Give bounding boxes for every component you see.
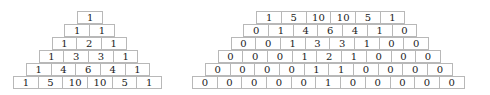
cell: 0 [391,50,417,63]
cell: 1 [64,24,90,37]
cell: 6 [317,24,343,37]
cell: 0 [254,63,280,76]
cell: 10 [330,11,356,24]
cell: 0 [266,76,292,89]
cell: 1 [256,11,282,24]
cell: 1 [341,50,367,63]
left-row-5: 1 5 10 10 5 1 [13,76,162,89]
cell: 1 [39,50,65,63]
cell: 5 [38,76,64,89]
cell: 3 [88,50,114,63]
cell: 0 [402,63,428,76]
cell: 4 [100,63,126,76]
cell: 0 [279,63,305,76]
cell: 0 [379,37,405,50]
cell: 10 [87,76,113,89]
cell: 0 [230,63,256,76]
cell: 1 [380,11,406,24]
left-row-2: 1 2 1 [52,37,127,50]
cell: 0 [390,76,416,89]
cell: 2 [316,50,342,63]
cell: 0 [414,76,440,89]
cell: 0 [378,63,404,76]
cell: 4 [293,24,319,37]
right-row-4: 0 0 0 0 1 1 0 0 0 0 [205,63,453,76]
cell: 0 [255,37,281,50]
cell: 5 [112,76,138,89]
cell: 1 [367,24,393,37]
cell: 6 [75,63,101,76]
cell: 3 [305,37,331,50]
right-row-1: 0 1 4 6 4 1 0 [243,24,417,37]
cell: 0 [231,37,257,50]
cell: 1 [328,63,354,76]
cell: 0 [242,50,268,63]
right-row-5: 0 0 0 0 0 1 0 0 0 0 0 [192,76,465,89]
cell: 3 [63,50,89,63]
cell: 1 [89,24,115,37]
cell: 0 [340,76,366,89]
left-row-0: 1 [77,11,103,24]
cell: 1 [13,76,39,89]
cell: 3 [329,37,355,50]
cell: 1 [268,24,294,37]
cell: 1 [113,50,139,63]
cell: 4 [342,24,368,37]
cell: 1 [304,63,330,76]
cell: 2 [76,37,102,50]
cell: 0 [205,63,231,76]
cell: 0 [392,24,418,37]
cell: 0 [192,76,218,89]
cell: 1 [136,76,162,89]
cell: 0 [267,50,293,63]
cell: 1 [26,63,52,76]
cell: 0 [427,63,453,76]
cell: 0 [403,37,429,50]
cell: 0 [241,76,267,89]
right-row-3: 0 0 0 1 2 1 0 0 0 [218,50,441,63]
cell: 5 [281,11,307,24]
left-row-3: 1 3 3 1 [39,50,139,63]
cell: 1 [292,50,318,63]
cell: 1 [280,37,306,50]
cell: 1 [125,63,151,76]
cell: 1 [52,37,78,50]
cell: 0 [291,76,317,89]
left-row-1: 1 1 [64,24,114,37]
right-row-0: 1 5 10 10 5 1 [256,11,405,24]
cell: 1 [354,37,380,50]
cell: 5 [355,11,381,24]
cell: 1 [77,11,103,24]
cell: 0 [415,50,441,63]
cell: 10 [306,11,332,24]
cell: 0 [365,76,391,89]
cell: 1 [315,76,341,89]
cell: 0 [218,50,244,63]
cell: 0 [353,63,379,76]
right-row-2: 0 0 1 3 3 1 0 0 [231,37,430,50]
cell: 0 [366,50,392,63]
cell: 1 [101,37,127,50]
cell: 0 [217,76,243,89]
left-row-4: 1 4 6 4 1 [26,63,150,76]
cell: 0 [439,76,465,89]
cell: 0 [243,24,269,37]
cell: 4 [51,63,77,76]
cell: 10 [62,76,88,89]
